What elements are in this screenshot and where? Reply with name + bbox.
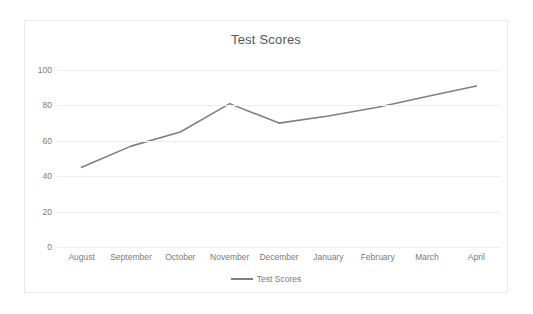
- x-axis-tick-label: October: [165, 252, 195, 262]
- legend-label-test-scores: Test Scores: [257, 274, 301, 284]
- gridline: [57, 212, 501, 213]
- x-axis-tick-label: August: [68, 252, 94, 262]
- y-axis-tick-label: 40: [43, 171, 52, 181]
- plot-area: [57, 70, 501, 247]
- x-axis-tick-label: March: [415, 252, 439, 262]
- x-axis-tick-label: December: [259, 252, 298, 262]
- y-axis-tick-label: 80: [43, 100, 52, 110]
- chart-legend: Test Scores: [25, 274, 507, 284]
- y-axis: 020406080100: [25, 70, 57, 247]
- x-axis-tick-label: February: [361, 252, 395, 262]
- y-axis-tick-label: 0: [47, 242, 52, 252]
- gridline: [57, 176, 501, 177]
- x-axis-tick-label: November: [210, 252, 249, 262]
- x-axis-tick-label: April: [468, 252, 485, 262]
- chart-container: Test Scores 020406080100 AugustSeptember…: [24, 20, 508, 293]
- y-axis-tick-label: 60: [43, 136, 52, 146]
- gridline: [57, 70, 501, 71]
- legend-line-swatch: [231, 278, 253, 280]
- y-axis-tick-label: 20: [43, 207, 52, 217]
- x-axis-tick-label: September: [110, 252, 152, 262]
- series-line-test-scores: [57, 70, 501, 247]
- gridline: [57, 247, 501, 248]
- x-axis-tick-label: January: [313, 252, 343, 262]
- y-axis-tick-label: 100: [38, 65, 52, 75]
- gridline: [57, 141, 501, 142]
- x-axis: AugustSeptemberOctoberNovemberDecemberJa…: [57, 252, 501, 268]
- chart-title: Test Scores: [25, 32, 507, 47]
- gridline: [57, 105, 501, 106]
